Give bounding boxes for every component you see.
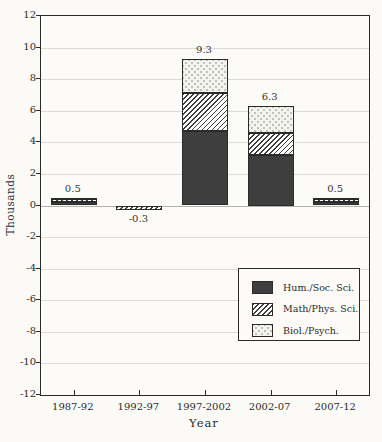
bar-total-label: 0.5 bbox=[305, 183, 365, 194]
chart-container: Thousands Year Hum./Soc. Sci. Math/Phys.… bbox=[0, 0, 382, 442]
bar-segment bbox=[182, 59, 228, 94]
bar-segment bbox=[116, 206, 162, 211]
y-tick-label: -12 bbox=[2, 388, 36, 400]
y-tick-label: 2 bbox=[2, 167, 36, 179]
x-tick-mark bbox=[336, 390, 337, 395]
y-tick-label: -2 bbox=[2, 230, 36, 242]
y-tick-mark bbox=[36, 268, 40, 269]
bar-segment bbox=[182, 93, 228, 131]
y-tick-label: 6 bbox=[2, 104, 36, 116]
zero-gridline bbox=[41, 206, 369, 207]
bar-segment bbox=[51, 198, 97, 200]
legend-swatch-math-phys-sci bbox=[252, 303, 273, 316]
y-tick-label: 12 bbox=[2, 9, 36, 21]
legend: Hum./Soc. Sci. Math/Phys. Sci. Biol./Psy… bbox=[238, 268, 360, 341]
bar-segment bbox=[313, 202, 359, 205]
x-tick-mark bbox=[205, 390, 206, 395]
y-tick-label: -4 bbox=[2, 262, 36, 274]
bar-segment bbox=[182, 131, 228, 205]
y-tick-label: -8 bbox=[2, 325, 36, 337]
y-tick-mark bbox=[36, 299, 40, 300]
y-tick-mark bbox=[36, 236, 40, 237]
y-tick-mark bbox=[36, 394, 40, 395]
stacked-bar-chart-page: { "chart_data": { "type": "bar", "stacke… bbox=[0, 0, 382, 442]
bar-segment bbox=[51, 202, 97, 205]
bar-segment bbox=[313, 198, 359, 200]
bar-segment bbox=[248, 155, 294, 206]
x-tick-label: 2007-12 bbox=[295, 401, 375, 413]
y-tick-label: -10 bbox=[2, 356, 36, 368]
bar-segment bbox=[248, 133, 294, 155]
y-tick-label: 10 bbox=[2, 41, 36, 53]
x-axis-title: Year bbox=[40, 416, 368, 430]
bar-total-label: 0.5 bbox=[43, 183, 103, 194]
y-tick-mark bbox=[36, 362, 40, 363]
y-tick-label: 4 bbox=[2, 135, 36, 147]
legend-label-hum-soc-sci: Hum./Soc. Sci. bbox=[283, 282, 354, 294]
x-tick-mark bbox=[74, 390, 75, 395]
gridline bbox=[41, 237, 369, 238]
bar-segment bbox=[248, 106, 294, 133]
y-tick-mark bbox=[36, 78, 40, 79]
bar-segment bbox=[313, 199, 359, 202]
y-tick-mark bbox=[36, 173, 40, 174]
y-tick-mark bbox=[36, 331, 40, 332]
y-tick-mark bbox=[36, 141, 40, 142]
legend-label-biol-psych: Biol./Psych. bbox=[283, 325, 339, 337]
legend-swatch-biol-psych bbox=[252, 324, 273, 337]
legend-item-hum-soc-sci: Hum./Soc. Sci. bbox=[252, 279, 359, 296]
legend-item-biol-psych: Biol./Psych. bbox=[252, 322, 359, 339]
legend-label-math-phys-sci: Math/Phys. Sci. bbox=[283, 303, 358, 315]
y-tick-mark bbox=[36, 110, 40, 111]
x-tick-mark bbox=[139, 390, 140, 395]
y-tick-mark bbox=[36, 205, 40, 206]
gridline bbox=[41, 363, 369, 364]
legend-item-math-phys-sci: Math/Phys. Sci. bbox=[252, 301, 359, 318]
legend-swatch-hum-soc-sci bbox=[252, 281, 273, 294]
y-tick-label: 0 bbox=[2, 199, 36, 211]
bar-segment bbox=[51, 199, 97, 202]
bar-total-label: -0.3 bbox=[108, 213, 168, 224]
bar-total-label: 9.3 bbox=[174, 44, 234, 55]
bar-total-label: 6.3 bbox=[240, 91, 300, 102]
x-tick-mark bbox=[271, 390, 272, 395]
y-tick-label: -6 bbox=[2, 293, 36, 305]
y-tick-mark bbox=[36, 47, 40, 48]
y-tick-mark bbox=[36, 15, 40, 16]
y-tick-label: 8 bbox=[2, 72, 36, 84]
